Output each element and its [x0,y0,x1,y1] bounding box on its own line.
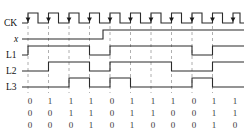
state-cell: 0 [28,120,33,130]
state-cell: 1 [151,108,156,118]
waveform-l2 [28,62,244,71]
state-cell: 1 [212,120,217,130]
state-cell: 0 [28,108,33,118]
rising-edge-arrow-2 [67,17,72,22]
state-cell: 0 [192,108,197,118]
state-cell: 0 [48,108,53,118]
rising-edge-arrow-1 [46,17,51,22]
rising-edge-arrow-10 [231,17,236,22]
state-cell: 1 [69,96,74,106]
rising-edge-arrow-6 [149,17,154,22]
gridline-group [28,14,213,93]
waveform-l1 [28,46,244,55]
waveform-canvas: CK x L1 L2 L3 [0,0,247,134]
state-cell: 0 [171,108,176,118]
state-cell: 0 [192,96,197,106]
rising-edge-arrow-4 [108,17,113,22]
state-cell: 0 [233,120,238,130]
timing-diagram-figure: CK x L1 L2 L3 [0,0,247,134]
state-cell: 1 [171,96,176,106]
waveform-x [28,30,244,39]
state-table-row-l2: 0 0 1 1 0 1 1 0 0 1 1 [28,108,238,118]
state-cell: 1 [89,108,94,118]
state-cell: 1 [89,120,94,130]
state-cell: 0 [69,120,74,130]
state-cell: 1 [212,96,217,106]
rising-edge-arrow-5 [128,17,133,22]
rising-edge-arrow-3 [87,17,92,22]
state-cell: 1 [89,96,94,106]
state-cell: 0 [151,120,156,130]
state-cell: 0 [110,108,115,118]
state-cell: 1 [151,96,156,106]
state-table: 0 1 1 1 0 1 1 1 0 1 1 0 0 1 1 0 1 1 [28,96,238,130]
state-cell: 1 [212,108,217,118]
state-cell: 0 [110,120,115,130]
state-cell: 1 [233,96,238,106]
state-cell: 0 [28,96,33,106]
rising-edge-arrow-8 [190,17,195,22]
waveform-l3 [28,78,244,87]
clock-edge-arrow-group [26,17,236,22]
state-cell: 0 [192,120,197,130]
state-cell: 1 [130,108,135,118]
rising-edge-arrow-0 [26,17,31,22]
state-cell: 0 [48,120,53,130]
rising-edge-arrow-7 [169,17,174,22]
state-table-row-l3: 0 0 0 1 0 1 0 0 0 1 0 [28,120,238,130]
state-table-row-l1: 0 1 1 1 0 1 1 1 0 1 1 [28,96,238,106]
state-cell: 1 [233,108,238,118]
signal-label-l2: L2 [6,66,17,76]
signal-label-ck: CK [4,18,17,28]
rising-edge-arrow-9 [210,17,215,22]
state-cell: 1 [130,96,135,106]
state-cell: 0 [171,120,176,130]
signal-label-l1: L1 [6,50,17,60]
state-cell: 1 [48,96,53,106]
state-cell: 1 [69,108,74,118]
state-cell: 0 [110,96,115,106]
state-cell: 1 [130,120,135,130]
signal-label-x: x [13,34,19,44]
signal-label-l3: L3 [6,82,17,92]
